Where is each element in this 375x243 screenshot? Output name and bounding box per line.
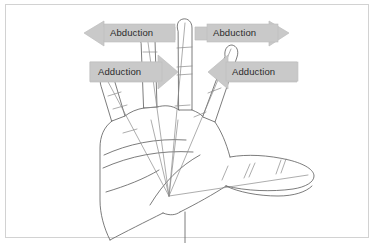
- joint-tick-ring-left-mcp: [144, 107, 158, 108]
- palm-crease-hypothenar: [106, 170, 159, 192]
- axis-index: [106, 78, 169, 196]
- palm-crease-thenar: [150, 155, 200, 205]
- adduction-left-label: Adduction: [98, 66, 141, 77]
- web-index-middle: [125, 108, 144, 116]
- abduction-right-label: Abduction: [213, 27, 256, 38]
- axis-thumb: [169, 175, 308, 196]
- figure-container: Abduction Abduction Adduction Adduction: [0, 0, 375, 243]
- joint-tick-middle-pip: [177, 66, 192, 67]
- joint-tick-index-pip: [113, 105, 127, 109]
- abduction-left-label: Abduction: [110, 27, 153, 38]
- joint-tick-middle-dip: [177, 47, 192, 48]
- adduction-right-label: Adduction: [232, 66, 275, 77]
- joint-tick-thumb-ip: [222, 166, 228, 180]
- joint-tick-thumb-dist: [276, 160, 281, 174]
- wrist-base: [110, 213, 163, 240]
- palm-crease-proximal: [103, 152, 193, 168]
- joint-tick-thumb-dist2: [281, 159, 286, 173]
- ring-right-finger-outline: [203, 45, 238, 122]
- axis-middle: [169, 23, 185, 196]
- wrist-crease: [163, 212, 180, 215]
- middle-finger-outline: [177, 19, 192, 110]
- joint-tick-middle-pip2: [177, 74, 192, 75]
- web-ring-little: [192, 110, 203, 117]
- hand-diagram-illustration: [0, 0, 375, 243]
- palm-left-edge: [100, 121, 112, 240]
- palm-right-edge: [215, 122, 230, 157]
- wrist-right: [180, 186, 226, 212]
- web-middle-ring: [157, 106, 179, 110]
- hand-drawing: [100, 19, 314, 243]
